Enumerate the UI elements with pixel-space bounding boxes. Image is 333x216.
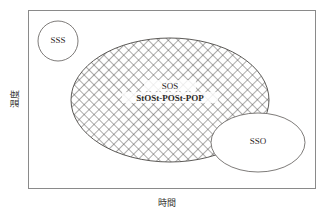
region-sublabel-sos: StOSt-POSt-POP [110, 93, 230, 103]
region-label-sso: SSO [231, 136, 285, 146]
diagram-graphics [0, 0, 333, 216]
x-axis-label: 時間 [132, 196, 202, 209]
region-label-sos: SOS [130, 81, 210, 91]
diagram-canvas: SSS SOS StOSt-POSt-POP SSO 温度 時間 [0, 0, 333, 216]
y-axis-label: 温度 [8, 77, 21, 121]
region-label-sss: SSS [38, 35, 78, 45]
